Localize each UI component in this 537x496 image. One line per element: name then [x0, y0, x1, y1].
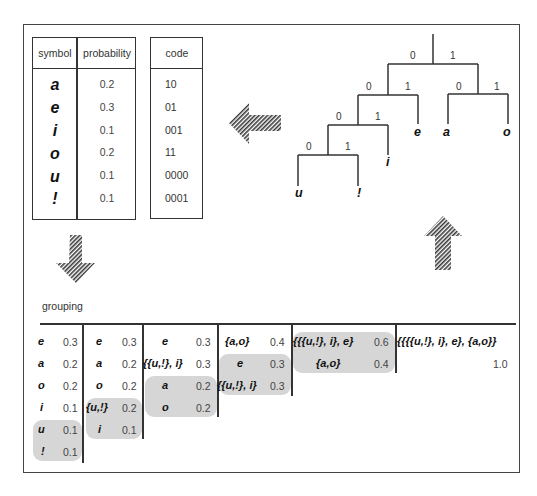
- group-probability: 0.2: [122, 358, 137, 370]
- column-divider: [142, 323, 144, 439]
- edge-label: 1: [375, 111, 381, 122]
- leaf-e: e: [414, 125, 421, 139]
- edge-label: 0: [336, 111, 342, 122]
- group-probability: 0.1: [63, 424, 78, 436]
- group-symbol: {{{{u,!}, i}, e}, {a,o}}: [397, 335, 497, 347]
- leaf-i: i: [386, 155, 389, 169]
- group-symbol: {a,o}: [316, 357, 340, 369]
- group-symbol: e: [96, 335, 102, 347]
- edge-label: 0: [410, 50, 416, 61]
- group-symbol: {{{u,!}, i}, e}: [293, 335, 354, 347]
- edge-label: 1: [494, 81, 500, 92]
- up-arrow-icon: [424, 216, 462, 270]
- group-probability: 0.1: [122, 424, 137, 436]
- group-symbol: {u,!}: [86, 401, 108, 413]
- leaf-a: a: [443, 125, 450, 139]
- leaf-exclamation: !: [357, 186, 361, 200]
- column-divider: [395, 323, 397, 373]
- grouping-title: grouping: [42, 300, 83, 312]
- group-probability: 0.2: [122, 380, 137, 392]
- group-probability: 0.4: [270, 336, 285, 348]
- group-probability: 0.3: [122, 336, 137, 348]
- group-probability: 0.6: [374, 336, 389, 348]
- group-symbol: e: [237, 357, 243, 369]
- grouping-header-line: [40, 323, 516, 325]
- group-probability: 0.2: [196, 402, 211, 414]
- group-symbol: a: [38, 357, 44, 369]
- huffman-tree: [298, 34, 508, 186]
- edge-label: 1: [405, 81, 411, 92]
- group-symbol: o: [162, 401, 169, 413]
- edge-label: 0: [306, 141, 312, 152]
- group-probability: 0.1: [63, 446, 78, 458]
- group-symbol: {{u,!}, i}: [217, 379, 257, 391]
- group-probability: 0.3: [196, 336, 211, 348]
- left-arrow-icon: [229, 103, 281, 144]
- group-symbol: {{u,!}, i}: [143, 357, 183, 369]
- group-symbol: u: [38, 423, 45, 435]
- group-symbol: a: [96, 357, 102, 369]
- down-arrow-icon: [56, 235, 95, 283]
- group-symbol: {a,o}: [225, 335, 249, 347]
- edge-label: 1: [345, 141, 351, 152]
- group-symbol: o: [38, 379, 45, 391]
- group-probability: 0.3: [270, 358, 285, 370]
- group-probability: 0.1: [63, 402, 78, 414]
- group-probability: 0.2: [196, 380, 211, 392]
- group-probability: 0.3: [270, 380, 285, 392]
- group-probability: 0.2: [63, 358, 78, 370]
- column-divider: [217, 323, 219, 417]
- group-probability: 0.2: [122, 402, 137, 414]
- group-symbol: a: [162, 379, 168, 391]
- leaf-u: u: [295, 186, 303, 200]
- edge-label: 0: [456, 81, 462, 92]
- group-probability: 0.2: [63, 380, 78, 392]
- diagram-graphics: [0, 0, 537, 496]
- group-probability: 1.0: [493, 358, 508, 370]
- group-probability: 0.3: [63, 336, 78, 348]
- edge-label: 0: [366, 81, 372, 92]
- group-symbol: i: [98, 423, 101, 435]
- group-symbol: e: [162, 335, 168, 347]
- group-probability: 0.3: [196, 358, 211, 370]
- group-symbol: !: [41, 445, 45, 457]
- group-symbol: o: [96, 379, 103, 391]
- edge-label: 1: [450, 50, 456, 61]
- leaf-o: o: [503, 125, 511, 139]
- column-divider: [82, 323, 84, 463]
- group-symbol: e: [38, 335, 44, 347]
- group-symbol: i: [40, 401, 43, 413]
- column-divider: [291, 323, 293, 396]
- group-probability: 0.4: [374, 358, 389, 370]
